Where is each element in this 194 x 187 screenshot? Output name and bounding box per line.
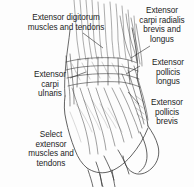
label-extensor-carpi-radialis: Extensor carpi radialis brevis and longu… [130, 6, 194, 44]
leader-line-extensor-carpi-radialis [131, 46, 150, 58]
label-extensor-pollicis-brevis: Extensor pollicis brevis [140, 98, 194, 127]
figure-caption: Select extensor muscles and tendons [10, 130, 92, 168]
thumb-outline [123, 126, 159, 174]
finger-outlines [88, 150, 129, 187]
label-extensor-digitorum: Extensor digitorum muscles and tendons [8, 13, 124, 32]
label-extensor-carpi-ulnaris: Extensor carpi ulnaris [14, 70, 86, 99]
anatomical-figure: Extensor digitorum muscles and tendons E… [0, 0, 194, 187]
label-extensor-pollicis-longus: Extensor pollicis longus [142, 58, 194, 87]
